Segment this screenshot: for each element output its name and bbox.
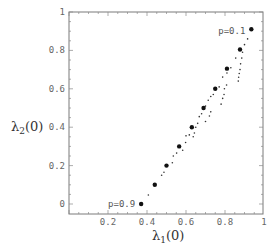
- y-tick-label: 0.6: [49, 84, 65, 94]
- large-data-point: [177, 144, 181, 148]
- y-axis-label: λ2(0): [11, 119, 43, 136]
- large-data-point: [225, 66, 229, 70]
- small-data-point: [238, 76, 240, 78]
- small-data-point: [220, 103, 222, 105]
- y-tick-label: 0: [60, 199, 65, 209]
- small-data-point: [197, 123, 199, 125]
- small-data-point: [226, 72, 228, 74]
- point-annotation: p=0.1: [218, 26, 245, 36]
- secondary-points: [148, 38, 249, 196]
- small-data-point: [224, 88, 226, 90]
- x-tick-label: 0.8: [217, 217, 233, 227]
- large-data-point: [190, 125, 194, 129]
- large-data-point: [238, 47, 242, 51]
- small-data-point: [222, 98, 224, 100]
- small-data-point: [226, 84, 228, 86]
- small-data-point: [207, 100, 209, 102]
- scatter-chart: 0.20.40.60.81 00.20.40.60.81 p=0.9p=0.1 …: [0, 0, 277, 251]
- small-data-point: [210, 111, 212, 113]
- small-data-point: [223, 94, 225, 96]
- x-tick-label: 0.4: [139, 217, 155, 227]
- small-data-point: [182, 149, 184, 151]
- small-data-point: [222, 76, 224, 78]
- x-tick-label: 0.2: [100, 217, 116, 227]
- large-data-point: [201, 106, 205, 110]
- small-data-point: [218, 86, 220, 88]
- plot-frame: [69, 12, 263, 214]
- frame-ticks: [69, 12, 263, 214]
- small-data-point: [244, 44, 246, 46]
- small-data-point: [239, 69, 241, 71]
- small-data-point: [213, 94, 215, 96]
- y-tick-label: 0.2: [49, 161, 65, 171]
- small-data-point: [242, 52, 244, 54]
- small-data-point: [210, 96, 212, 98]
- small-data-point: [185, 135, 187, 137]
- small-data-point: [241, 57, 243, 59]
- small-data-point: [195, 126, 197, 128]
- y-tick-label: 0.8: [49, 45, 65, 55]
- y-tick-label: 0.4: [49, 122, 65, 132]
- small-data-point: [238, 73, 240, 75]
- small-data-point: [205, 121, 207, 123]
- large-data-point: [249, 27, 253, 31]
- small-data-point: [235, 57, 237, 59]
- small-data-point: [237, 80, 239, 82]
- small-data-point: [230, 67, 232, 69]
- large-data-point: [153, 183, 157, 187]
- small-data-point: [176, 152, 178, 154]
- x-axis-label: λ1(0): [152, 228, 184, 245]
- large-data-point: [213, 87, 217, 91]
- small-data-point: [240, 63, 242, 65]
- x-tick-label: 1: [261, 217, 266, 227]
- y-tick-labels: 00.20.40.60.81: [49, 7, 65, 209]
- large-data-point: [164, 163, 168, 167]
- x-tick-labels: 0.20.40.60.81: [100, 217, 267, 227]
- small-data-point: [209, 115, 211, 117]
- main-points: [139, 27, 254, 206]
- large-data-point: [139, 202, 143, 206]
- small-data-point: [247, 38, 249, 40]
- small-data-point: [148, 194, 150, 196]
- small-data-point: [194, 132, 196, 134]
- point-annotations: p=0.9p=0.1: [108, 26, 245, 209]
- small-data-point: [189, 134, 191, 136]
- small-data-point: [172, 162, 174, 164]
- small-data-point: [201, 113, 203, 115]
- small-data-point: [163, 172, 165, 174]
- small-data-point: [198, 116, 200, 118]
- small-data-point: [173, 155, 175, 157]
- point-annotation: p=0.9: [108, 199, 135, 209]
- y-tick-label: 1: [60, 7, 65, 17]
- small-data-point: [161, 174, 163, 176]
- x-tick-label: 0.6: [178, 217, 194, 227]
- small-data-point: [185, 142, 187, 144]
- small-data-point: [192, 136, 194, 138]
